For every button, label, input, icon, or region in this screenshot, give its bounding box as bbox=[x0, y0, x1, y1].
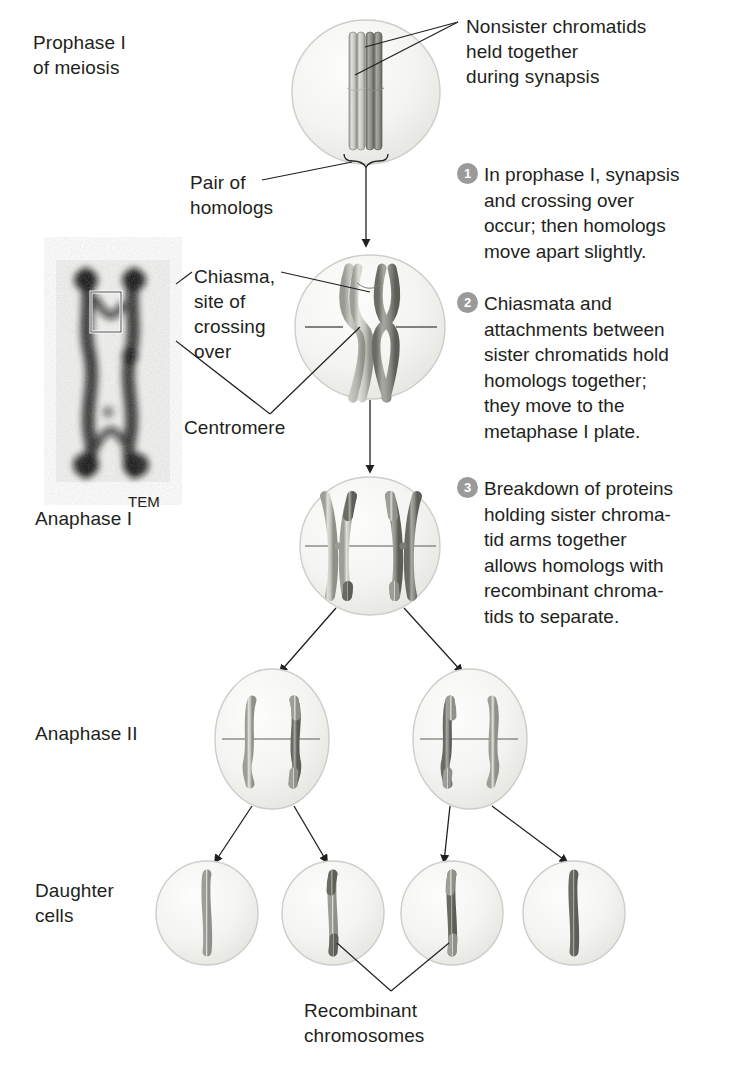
callout-recombinant-chromosomes: Recombinant chromosomes bbox=[304, 998, 424, 1048]
tem-micrograph bbox=[56, 260, 170, 482]
daughter-cell-3 bbox=[401, 861, 503, 965]
callout-nonsister-chromatids: Nonsister chromatids held together durin… bbox=[466, 14, 646, 89]
anaphase-i-cell bbox=[300, 477, 440, 615]
callout-centromere: Centromere bbox=[184, 415, 285, 440]
anaphase-ii-cell-left bbox=[215, 669, 329, 809]
daughter-cell-4 bbox=[523, 861, 625, 965]
leader-pair-of-homologs bbox=[262, 162, 352, 180]
stage-label-prophase-i: Prophase I of meiosis bbox=[33, 30, 126, 80]
anaphase-ii-cell-right bbox=[413, 669, 527, 809]
step-badge-3: 3 bbox=[457, 477, 478, 498]
step-text-1: In prophase I, synapsis and crossing ove… bbox=[484, 162, 732, 264]
metaphase-i-cell bbox=[295, 255, 445, 399]
step-badge-1: 1 bbox=[457, 163, 478, 184]
arrows-anaphase-ii-to-daughter bbox=[215, 806, 567, 862]
callout-chiasma: Chiasma, site of crossing over bbox=[194, 264, 275, 364]
tem-caption: TEM bbox=[128, 489, 160, 514]
arrows-anaphase-i-to-anaphase-ii bbox=[280, 608, 462, 672]
stage-label-anaphase-i: Anaphase I bbox=[35, 506, 132, 531]
daughter-cell-1 bbox=[156, 861, 258, 965]
meiosis-figure: Prophase I of meiosis Anaphase I Anaphas… bbox=[0, 0, 734, 1073]
step-badge-2: 2 bbox=[457, 292, 478, 313]
stage-label-daughter-cells: Daughter cells bbox=[35, 878, 114, 928]
step-text-2: Chiasmata and attachments between sister… bbox=[484, 291, 732, 444]
leader-chiasma-to-tem bbox=[176, 272, 192, 284]
daughter-cell-2 bbox=[282, 861, 384, 965]
step-text-3: Breakdown of proteins holding sister chr… bbox=[484, 476, 732, 629]
callout-pair-of-homologs: Pair of homologs bbox=[190, 170, 273, 220]
stage-label-anaphase-ii: Anaphase II bbox=[35, 721, 138, 746]
